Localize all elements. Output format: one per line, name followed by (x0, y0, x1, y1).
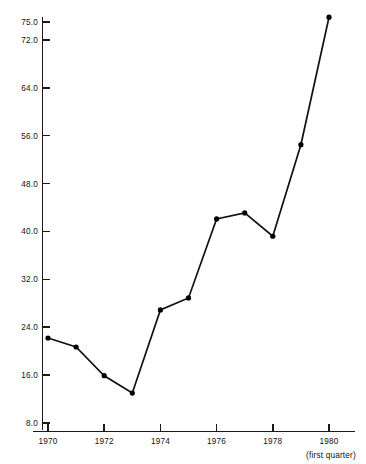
x-tick-label: 1978 (263, 437, 282, 446)
data-point: 1970: 22.2 (45, 335, 50, 340)
x-tick-label: 1972 (95, 437, 114, 446)
y-tick-label: 24.0 (21, 323, 38, 332)
y-tick-label: 8.0 (26, 419, 38, 428)
chart-annotations: (first quarter) (306, 451, 356, 460)
line-chart: 8.016.024.032.040.048.056.064.072.075.0 … (0, 0, 366, 464)
data-point: 1976: 42.1 (214, 216, 219, 221)
data-point: 1980: 75.8 (326, 15, 331, 20)
y-tick-label: 72.0 (21, 36, 38, 45)
data-point: 1977: 43.1 (242, 210, 247, 215)
chart-background (0, 0, 366, 464)
x-tick-label: 1974 (151, 437, 170, 446)
x-tick-label: 1980 (319, 437, 338, 446)
y-tick-label: 40.0 (21, 227, 38, 236)
y-tick-label: 75.0 (21, 18, 38, 27)
x-tick-label: 1976 (207, 437, 226, 446)
data-point: 1971: 20.7 (74, 344, 79, 349)
y-tick-label: 56.0 (21, 132, 38, 141)
data-point: 1974: 26.9 (158, 307, 163, 312)
x-tick-label: 1970 (38, 437, 57, 446)
data-point: 1972: 15.9 (102, 373, 107, 378)
data-point: 1979: 54.5 (298, 142, 303, 147)
data-point: 1978: 39.2 (270, 234, 275, 239)
y-tick-label: 64.0 (21, 84, 38, 93)
y-tick-label: 16.0 (21, 371, 38, 380)
data-point: 1973: 13 (130, 390, 135, 395)
data-point: 1975: 28.9 (186, 295, 191, 300)
x-axis-note: (first quarter) (306, 451, 356, 460)
chart-canvas: 8.016.024.032.040.048.056.064.072.075.0 … (0, 0, 366, 464)
y-tick-label: 32.0 (21, 275, 38, 284)
y-tick-label: 48.0 (21, 180, 38, 189)
